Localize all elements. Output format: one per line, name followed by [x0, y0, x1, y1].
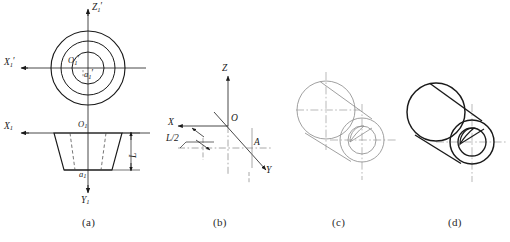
label-axo-origin: O	[231, 114, 238, 124]
panel-d-generatrix-lower	[415, 135, 461, 164]
panel-c-generatrix-upper	[320, 82, 372, 120]
label-front-view-point-a: a1′	[84, 69, 94, 80]
label-axo-x-axis: X	[168, 118, 174, 128]
label-top-view-x-axis: X1	[4, 122, 13, 132]
label-axo-point-A: A	[254, 138, 260, 148]
top-view-hidden-line-left	[70, 133, 75, 170]
axo-dimension-arrow-upper	[192, 128, 204, 137]
panel-d-solid	[407, 83, 506, 182]
caption-d: (d)	[448, 216, 462, 228]
label-dimension-L: L	[129, 153, 139, 158]
axo-dimension-tail	[180, 142, 186, 148]
panel-d-base-circle	[407, 83, 465, 141]
top-view-hidden-line-right	[101, 133, 106, 170]
figure-root: Z1′ X1′ O1′ a1′ X1 O1 a1 Y1 L Z X Y O A …	[0, 0, 510, 242]
panel-c-construction	[296, 72, 396, 180]
panel-b-axes	[178, 76, 272, 184]
label-axo-z-axis: Z	[222, 64, 227, 74]
panel-d-generatrix-upper	[430, 84, 482, 122]
figure-canvas	[0, 0, 510, 242]
caption-a: (a)	[82, 216, 95, 228]
label-axo-dimension: L/2	[166, 134, 179, 144]
label-top-view-origin: O1	[78, 120, 87, 130]
label-front-view-centre: O1′	[68, 55, 79, 66]
label-top-view-point-a: a1	[79, 170, 87, 180]
caption-c: (c)	[332, 216, 345, 228]
label-top-view-y-axis: Y1	[81, 196, 90, 206]
panel-a-front-view	[21, 9, 146, 118]
label-front-view-z-axis: Z1′	[92, 2, 103, 13]
panel-c-generatrix-lower	[305, 133, 351, 162]
label-front-view-x-axis: X1′	[4, 57, 15, 68]
label-axo-y-axis: Y	[266, 166, 271, 176]
caption-b: (b)	[213, 216, 227, 228]
